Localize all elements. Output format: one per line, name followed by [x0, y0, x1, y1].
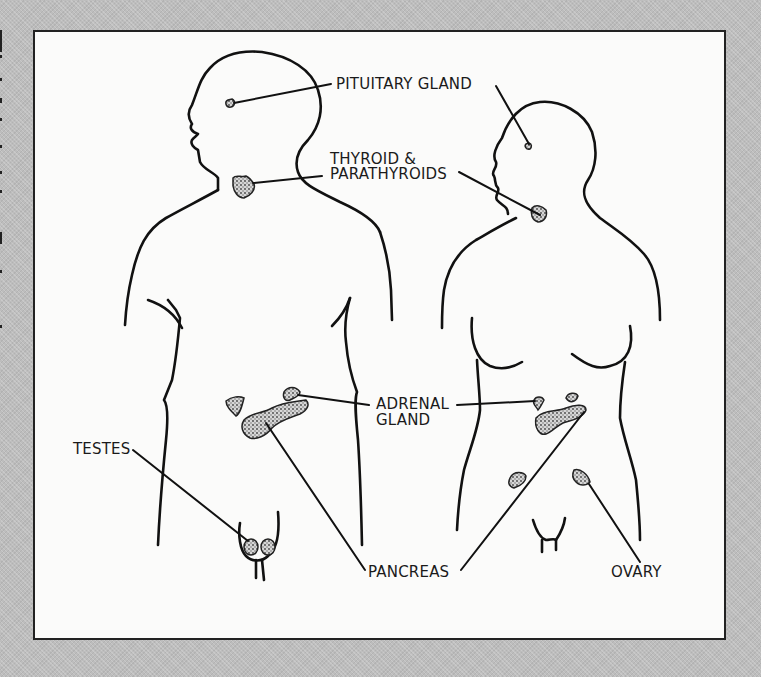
adrenal-leader-female [457, 401, 535, 405]
female-right-breast [572, 326, 631, 368]
label-pancreas: PANCREAS [368, 564, 449, 581]
label-adrenal-line2: GLAND [376, 412, 430, 429]
male-testis-left [244, 539, 258, 555]
female-torso-left [457, 360, 480, 530]
female-adrenal-left [533, 397, 544, 410]
label-ovary: OVARY [611, 564, 662, 581]
label-testes: TESTES [73, 441, 131, 458]
testes-leader [133, 450, 248, 541]
female-ovary-right [573, 470, 590, 485]
male-torso-left [158, 300, 180, 545]
female-glands [509, 143, 590, 488]
female-left-shoulder [442, 218, 516, 328]
pituitary-leader-female [496, 86, 529, 144]
thyroid-leader-male [253, 176, 322, 183]
thyroid-leader-female [459, 172, 540, 215]
male-figure [125, 52, 392, 580]
female-figure [442, 102, 660, 552]
pituitary-leader-male [234, 84, 331, 103]
male-pancreas [242, 400, 308, 439]
male-genital-lines [256, 560, 264, 580]
female-torso-right [620, 362, 640, 540]
male-torso-right [345, 298, 362, 545]
pancreas-leader-female [461, 412, 584, 570]
female-head-outline [493, 102, 660, 320]
male-adrenal-right [283, 388, 300, 401]
female-left-breast [472, 318, 522, 368]
male-thyroid [233, 176, 254, 198]
male-testis-right [261, 539, 275, 555]
female-groin [533, 518, 565, 540]
pancreas-leader-male [266, 423, 365, 570]
label-pituitary-gland: PITUITARY GLAND [336, 76, 472, 93]
male-adrenal-left [226, 397, 244, 416]
ovary-leader [589, 484, 640, 562]
female-groin-lines [542, 540, 556, 552]
male-right-shoulder [380, 232, 392, 320]
label-thyroid-line2: PARATHYROIDS [330, 166, 447, 183]
female-ovary-left [509, 473, 526, 489]
female-adrenal-right [566, 393, 578, 401]
